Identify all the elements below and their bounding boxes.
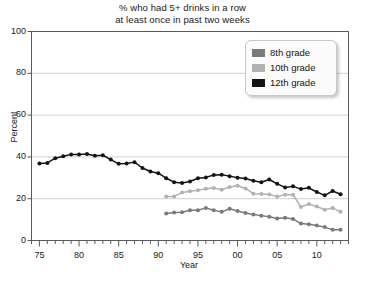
y-axis-tick-label: 80 [0,67,26,77]
data-point-marker [323,208,327,212]
data-point-marker [259,214,263,218]
data-point-marker [299,205,303,209]
data-point-marker [243,211,247,215]
data-point-marker [37,162,41,166]
data-point-marker [212,186,216,190]
data-point-marker [299,187,303,191]
data-point-marker [275,195,279,199]
data-series [164,206,342,232]
data-point-marker [267,193,271,197]
data-point-marker [323,193,327,197]
data-point-marker [133,160,137,164]
data-point-marker [275,182,279,186]
data-point-marker [140,166,144,170]
y-axis-tick-label: 20 [0,193,26,203]
data-point-marker [283,193,287,197]
data-point-marker [196,188,200,192]
data-point-marker [101,153,105,157]
data-point-marker [291,193,295,197]
data-point-marker [172,194,176,198]
data-point-marker [283,216,287,220]
data-point-marker [315,223,319,227]
data-point-marker [204,187,208,191]
data-point-marker [93,154,97,158]
y-axis-tick-label: 40 [0,151,26,161]
data-point-marker [291,217,295,221]
legend-swatch-12th-grade [252,79,265,87]
data-point-marker [125,162,129,166]
data-point-marker [251,192,255,196]
data-point-marker [148,170,152,174]
data-point-marker [331,206,335,210]
data-point-marker [204,175,208,179]
data-point-marker [339,210,343,214]
data-point-marker [45,161,49,165]
data-point-marker [307,222,311,226]
data-point-marker [259,192,263,196]
data-point-marker [77,152,81,156]
data-point-marker [164,195,168,199]
data-point-marker [156,171,160,175]
data-point-marker [228,185,232,189]
data-point-marker [164,176,168,180]
x-axis-tick-label: 00 [226,250,250,260]
data-point-marker [267,177,271,181]
legend-swatch-8th-grade [252,49,265,57]
data-point-marker [196,176,200,180]
legend-label-10th-grade: 10th grade [270,62,315,73]
x-axis-tick-label: 90 [146,250,170,260]
data-point-marker [164,212,168,216]
data-point-marker [220,173,224,177]
data-point-marker [172,180,176,184]
data-point-marker [69,152,73,156]
data-point-marker [236,209,240,213]
data-point-marker [109,158,113,162]
data-point-marker [180,181,184,185]
data-point-marker [228,207,232,211]
y-axis-tick-label: 100 [0,26,26,36]
data-point-marker [180,190,184,194]
data-point-marker [299,222,303,226]
legend-swatch-10th-grade [252,64,265,72]
data-point-marker [283,185,287,189]
data-point-marker [228,174,232,178]
chart-legend: 8th grade 10th grade 12th grade [245,40,337,96]
data-point-marker [188,208,192,212]
data-point-marker [339,192,343,196]
legend-label-12th-grade: 12th grade [270,77,315,88]
data-point-marker [212,208,216,212]
data-point-marker [339,228,343,232]
data-point-marker [220,188,224,192]
x-axis-tick-label: 75 [27,250,51,260]
data-point-marker [323,225,327,229]
data-point-marker [204,206,208,210]
data-point-marker [275,217,279,221]
legend-label-8th-grade: 8th grade [270,47,310,58]
data-point-marker [315,204,319,208]
data-point-marker [212,173,216,177]
x-axis-tick-label: 05 [265,250,289,260]
data-point-marker [196,208,200,212]
legend-item-8th-grade: 8th grade [252,45,331,60]
data-point-marker [331,228,335,232]
data-point-marker [180,210,184,214]
data-point-marker [243,186,247,190]
data-point-marker [291,184,295,188]
x-axis-tick-label: 10 [305,250,329,260]
data-point-marker [307,186,311,190]
data-point-marker [236,184,240,188]
data-point-marker [117,162,121,166]
x-axis-label: Year [30,260,348,270]
data-point-marker [251,179,255,183]
x-axis-tick-label: 80 [67,250,91,260]
data-point-marker [243,176,247,180]
chart-figure: % who had 5+ drinks in a row at least on… [0,0,365,281]
data-point-marker [85,152,89,156]
data-point-marker [172,210,176,214]
legend-item-10th-grade: 10th grade [252,60,331,75]
x-axis-tick-label: 95 [186,250,210,260]
data-point-marker [188,189,192,193]
data-point-marker [188,180,192,184]
series-line [39,154,340,195]
data-point-marker [61,154,65,158]
